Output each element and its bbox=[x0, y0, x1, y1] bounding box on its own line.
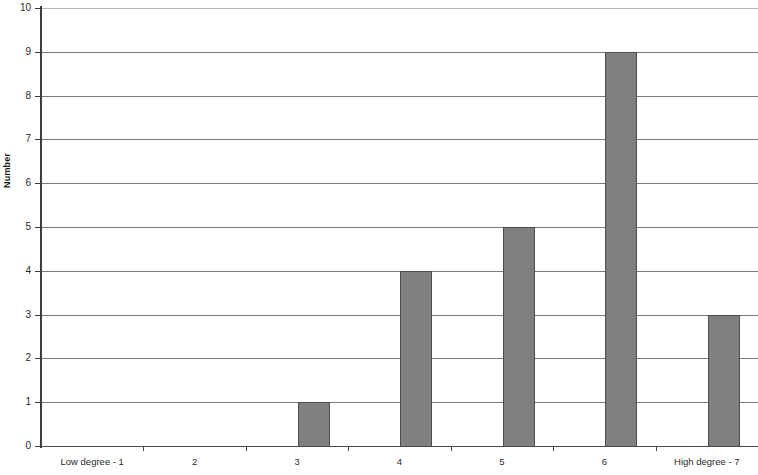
y-axis-tick-label: 8 bbox=[0, 91, 31, 101]
x-axis-tick-label: 4 bbox=[348, 456, 450, 467]
x-axis-tick bbox=[246, 446, 247, 451]
gridline bbox=[41, 183, 758, 184]
gridline bbox=[41, 227, 758, 228]
y-axis-tick bbox=[35, 8, 41, 9]
x-axis-tick bbox=[143, 446, 144, 451]
x-axis-tick bbox=[348, 446, 349, 451]
plot-area bbox=[41, 8, 758, 446]
x-axis-tick bbox=[451, 446, 452, 451]
gridline bbox=[41, 96, 758, 97]
bar bbox=[298, 402, 330, 447]
y-axis-tick bbox=[35, 271, 41, 272]
gridline bbox=[41, 8, 758, 9]
bar bbox=[708, 315, 740, 447]
y-axis-tick bbox=[35, 446, 41, 447]
x-axis-tick bbox=[553, 446, 554, 451]
x-axis-tick-label: 5 bbox=[451, 456, 553, 467]
y-axis-tick-label: 10 bbox=[0, 3, 31, 13]
x-axis-tick bbox=[656, 446, 657, 451]
y-axis-tick-label: 2 bbox=[0, 353, 31, 363]
x-axis-tick-label: 2 bbox=[143, 456, 245, 467]
x-axis-tick-label: Low degree - 1 bbox=[41, 456, 143, 467]
y-axis-tick-label: 3 bbox=[0, 310, 31, 320]
y-axis-tick-label: 9 bbox=[0, 47, 31, 57]
bar bbox=[400, 271, 432, 447]
bar-chart: 012345678910 Low degree - 123456High deg… bbox=[0, 0, 758, 475]
y-axis-tick-label: 7 bbox=[0, 134, 31, 144]
y-axis-tick bbox=[35, 96, 41, 97]
y-axis-tick bbox=[35, 402, 41, 403]
gridline bbox=[41, 52, 758, 53]
y-axis-tick-label: 0 bbox=[0, 441, 31, 451]
x-axis-tick-label: 6 bbox=[553, 456, 655, 467]
y-axis-tick bbox=[35, 52, 41, 53]
x-axis-tick-label: 3 bbox=[246, 456, 348, 467]
bar bbox=[605, 52, 637, 447]
y-axis-tick bbox=[35, 139, 41, 140]
y-axis-tick bbox=[35, 183, 41, 184]
y-axis-tick-label: 4 bbox=[0, 266, 31, 276]
y-axis-tick bbox=[35, 227, 41, 228]
bar bbox=[503, 227, 535, 447]
x-axis-tick-label: High degree - 7 bbox=[656, 456, 758, 467]
y-axis-tick bbox=[35, 358, 41, 359]
y-axis-tick-label: 1 bbox=[0, 397, 31, 407]
y-axis-tick-label: 5 bbox=[0, 222, 31, 232]
y-axis-tick bbox=[35, 315, 41, 316]
gridline bbox=[41, 139, 758, 140]
y-axis-title: Number bbox=[2, 153, 12, 188]
